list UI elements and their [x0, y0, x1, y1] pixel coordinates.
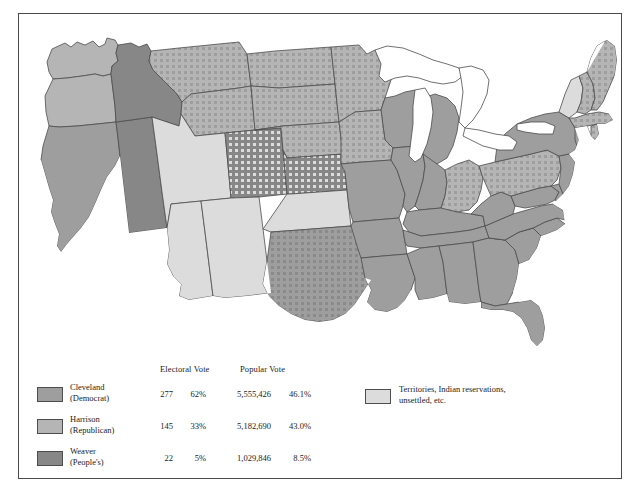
column-header-electoral-vote: Electoral Vote — [160, 364, 209, 374]
popular-pct-weaver: 8.5% — [283, 453, 311, 463]
column-header-popular-vote: Popular Vote — [240, 364, 285, 374]
territory-line-1: Territories, Indian reservations, — [399, 384, 599, 395]
popular-vote-cleveland: 5,555,426 — [219, 389, 271, 399]
territory-label: Territories, Indian reservations, unsett… — [399, 384, 599, 405]
legend-row-territories: Territories, Indian reservations, unsett… — [365, 386, 615, 416]
candidate-name: Cleveland — [70, 382, 154, 393]
electoral-vote-harrison: 145 — [151, 421, 173, 431]
state-wyoming — [181, 86, 255, 136]
state-north-dakota — [247, 47, 335, 88]
legend-row-harrison: Harrison (Republican) 145 33% 5,182,690 … — [19, 416, 359, 442]
map-area — [19, 14, 621, 352]
state-colorado — [225, 128, 287, 198]
candidate-label-weaver: Weaver (People's) — [70, 446, 154, 467]
popular-vote-weaver: 1,029,846 — [219, 453, 271, 463]
legend-row-weaver: Weaver (People's) 22 5% 1,029,846 8.5% — [19, 448, 359, 474]
legend-row-cleveland: Cleveland (Democrat) 277 62% 5,555,426 4… — [19, 384, 359, 410]
cleveland-swatch — [37, 387, 63, 402]
state-ohio — [441, 160, 483, 212]
electoral-pct-weaver: 5% — [184, 453, 206, 463]
candidate-party: (Republican) — [70, 425, 154, 436]
state-oregon — [45, 74, 116, 127]
candidate-name: Harrison — [70, 414, 154, 425]
map-legend: Electoral Vote Popular Vote Cleveland (D… — [19, 352, 621, 478]
popular-vote-harrison: 5,182,690 — [219, 421, 271, 431]
state-missouri — [341, 160, 405, 222]
state-georgia — [473, 238, 519, 306]
state-oklahoma-territory — [263, 190, 351, 232]
electoral-vote-cleveland: 277 — [151, 389, 173, 399]
candidate-label-harrison: Harrison (Republican) — [70, 414, 154, 435]
candidate-party: (Democrat) — [70, 393, 154, 404]
us-election-map — [19, 14, 621, 352]
territory-line-2: unsettled, etc. — [399, 395, 599, 406]
weaver-swatch — [37, 451, 63, 466]
popular-pct-cleveland: 46.1% — [283, 389, 311, 399]
territory-swatch — [365, 389, 391, 404]
harrison-swatch — [37, 419, 63, 434]
candidate-party: (People's) — [70, 457, 154, 468]
popular-pct-harrison: 43.0% — [283, 421, 311, 431]
election-map-figure: Electoral Vote Popular Vote Cleveland (D… — [18, 13, 622, 479]
electoral-vote-weaver: 22 — [151, 453, 173, 463]
state-new-mexico-territory — [201, 197, 271, 298]
candidate-label-cleveland: Cleveland (Democrat) — [70, 382, 154, 403]
state-washington — [47, 38, 118, 79]
state-arkansas — [351, 218, 407, 258]
lake-huron — [459, 66, 489, 128]
electoral-pct-harrison: 33% — [184, 421, 206, 431]
candidate-name: Weaver — [70, 446, 154, 457]
lake-superior — [375, 46, 463, 84]
electoral-pct-cleveland: 62% — [184, 389, 206, 399]
